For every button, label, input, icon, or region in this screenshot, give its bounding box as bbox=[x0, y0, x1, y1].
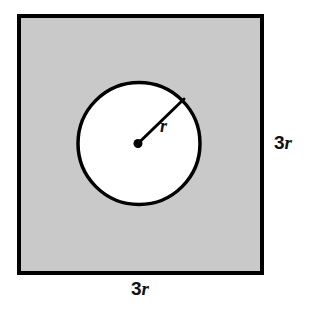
right-side-label-variable: r bbox=[285, 132, 293, 153]
right-side-label-digit: 3 bbox=[274, 132, 285, 153]
bottom-side-label-digit: 3 bbox=[131, 278, 142, 299]
geometry-figure: r 3r 3r bbox=[0, 0, 309, 310]
bottom-side-label: 3r bbox=[131, 278, 150, 299]
figure-canvas: r 3r 3r bbox=[0, 0, 309, 310]
radius-label: r bbox=[160, 116, 168, 136]
right-side-label: 3r bbox=[274, 132, 293, 153]
circle-center-point bbox=[134, 139, 143, 148]
bottom-side-label-variable: r bbox=[142, 278, 150, 299]
